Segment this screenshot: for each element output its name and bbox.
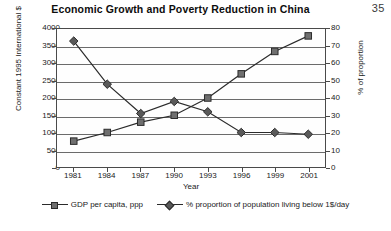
chart-area: Constant 1995 International $ % of propo… <box>0 18 391 196</box>
data-point-marker <box>238 71 245 78</box>
x-axis-tickmark <box>107 168 108 172</box>
y-axis-right-tickmark <box>326 116 330 117</box>
plot-area <box>56 28 326 168</box>
x-axis-tickmark <box>242 168 243 172</box>
data-point-marker <box>137 119 144 126</box>
y-axis-right-label: % of proportion <box>356 8 365 128</box>
x-axis-tick: 2001 <box>289 171 329 180</box>
legend-square-icon <box>42 200 68 209</box>
x-axis-tickmark <box>208 168 209 172</box>
y-axis-right-tickmark <box>326 81 330 82</box>
data-point-marker <box>204 95 211 102</box>
y-axis-right-tick: 50 <box>331 77 340 85</box>
x-axis-tickmark <box>174 168 175 172</box>
legend-item: GDP per capita, ppp <box>42 200 143 209</box>
y-axis-right-tick: 40 <box>331 94 340 102</box>
y-axis-right-tick: 70 <box>331 42 340 50</box>
chart-legend: GDP per capita, ppp% proportion of popul… <box>0 200 391 209</box>
y-axis-right-tickmark <box>326 151 330 152</box>
y-axis-right-tick: 0 <box>331 164 335 172</box>
x-axis-tickmark <box>73 168 74 172</box>
y-axis-right-tickmark <box>326 63 330 64</box>
data-point-marker <box>305 33 312 40</box>
y-axis-right-tickmark <box>326 98 330 99</box>
data-point-marker <box>304 130 313 138</box>
x-axis-label: Year <box>56 182 326 191</box>
y-axis-right-tickmark <box>326 28 330 29</box>
y-axis-right-tick: 30 <box>331 112 340 120</box>
y-axis-right-tickmark <box>326 46 330 47</box>
legend-label: % proportion of population living below … <box>186 200 349 209</box>
x-axis-tickmark <box>275 168 276 172</box>
data-point-marker <box>237 128 246 136</box>
y-axis-right-tick: 10 <box>331 147 340 155</box>
legend-diamond-icon <box>157 200 183 209</box>
data-point-marker <box>104 129 111 136</box>
y-axis-left-label: Constant 1995 International $ <box>14 0 23 129</box>
x-axis-tickmark <box>309 168 310 172</box>
data-point-marker <box>271 48 278 55</box>
y-axis-right-tickmark <box>326 133 330 134</box>
data-point-marker <box>70 138 77 145</box>
legend-label: GDP per capita, ppp <box>71 200 143 209</box>
x-axis-tickmark <box>140 168 141 172</box>
data-point-marker <box>170 97 179 105</box>
data-point-marker <box>203 108 212 116</box>
y-axis-right-tickmark <box>326 168 330 169</box>
data-point-marker <box>171 112 178 119</box>
series-plot <box>57 29 325 167</box>
y-axis-right-tick: 60 <box>331 59 340 67</box>
y-axis-right-tick: 80 <box>331 24 340 32</box>
legend-item: % proportion of population living below … <box>157 200 349 209</box>
y-axis-left-tickmark <box>52 168 56 169</box>
data-point-marker <box>270 128 279 136</box>
y-axis-right-tick: 20 <box>331 129 340 137</box>
chart-title: Economic Growth and Poverty Reduction in… <box>0 3 391 15</box>
